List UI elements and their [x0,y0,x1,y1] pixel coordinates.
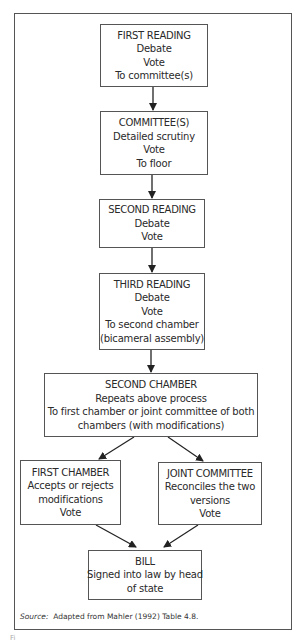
node-line: To first chamber or joint committee of b… [48,405,255,419]
node-line: To second chamber [105,318,198,332]
node-title: JOINT COMMITTEE [167,467,253,481]
node-line: To floor [137,157,172,171]
node-third-reading: THIRD READING Debate Vote To second cham… [99,273,205,350]
node-line: (bicameral assembly) [100,332,204,346]
node-line: Debate [134,217,169,231]
node-first-chamber: FIRST CHAMBER Accepts or rejects modific… [20,460,121,525]
node-line: versions [190,494,230,508]
source-label: Source: [20,612,48,621]
node-line: Detailed scrutiny [113,130,195,144]
node-line: Reconciles the two [165,480,255,494]
source-text: Adapted from Mahler (1992) Table 4.8. [53,612,198,621]
node-line: Vote [199,507,220,521]
node-joint-committee: JOINT COMMITTEE Reconciles the two versi… [158,462,262,525]
node-line: modifications [38,493,103,507]
node-line: Repeats above process [95,392,207,406]
node-line: Vote [141,305,162,319]
node-bill: BILL Signed into law by head of state [88,550,202,600]
node-title: COMMITTEE(S) [119,116,189,130]
node-line: Vote [143,143,164,157]
node-committees: COMMITTEE(S) Detailed scrutiny Vote To f… [100,111,208,175]
node-title: FIRST CHAMBER [32,466,109,480]
node-line: Signed into law by head [87,568,203,582]
source-caption: Source: Adapted from Mahler (1992) Table… [20,612,198,621]
node-line: Accepts or rejects [28,479,114,493]
node-title: BILL [135,555,155,569]
node-second-reading: SECOND READING Debate Vote [99,199,205,248]
node-title: THIRD READING [114,278,191,292]
node-line: Vote [60,506,81,520]
figure-label-fragment: Fi [10,634,15,642]
node-line: Vote [143,56,164,70]
node-line: Debate [136,42,171,56]
node-line: of state [127,582,164,596]
node-line: Debate [134,291,169,305]
node-line: Vote [141,230,162,244]
node-title: SECOND CHAMBER [105,378,197,392]
node-title: SECOND READING [108,203,196,217]
node-line: To committee(s) [115,69,193,83]
node-second-chamber: SECOND CHAMBER Repeats above process To … [44,373,258,437]
node-first-reading: FIRST READING Debate Vote To committee(s… [100,24,208,87]
node-title: FIRST READING [117,29,190,43]
node-line: chambers (with modifications) [78,419,224,433]
